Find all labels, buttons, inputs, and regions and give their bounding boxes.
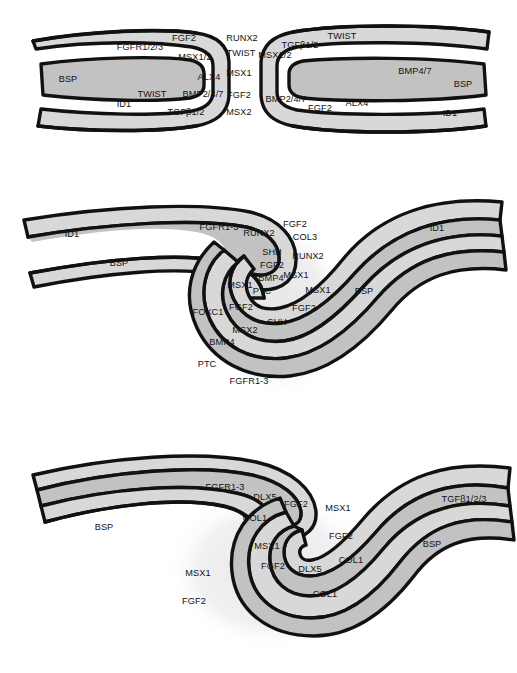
gene-label: RUNX2 bbox=[292, 251, 324, 261]
gene-label: MSX1 bbox=[283, 270, 308, 280]
gene-label: FGFR1/2/3 bbox=[117, 42, 163, 52]
gene-label: MSX1 bbox=[226, 68, 251, 78]
panel-stage-3: FGFR1-3DLX5FGF2MSX1TGFβ1/2/3COL1BSPFGF2B… bbox=[0, 420, 517, 673]
panel-stage-1-labels: FGFR1/2/3FGF2MSX1/2ALX4BSPTWISTBMP2/4/7I… bbox=[0, 0, 517, 180]
gene-label: RUNX2 bbox=[243, 228, 275, 238]
gene-label: FGFR1-3 bbox=[200, 222, 239, 232]
gene-label: SHH bbox=[267, 317, 287, 327]
gene-label: COL3 bbox=[293, 232, 317, 242]
panel-stage-2-labels: ID1FGFR1-3RUNX2FGF2COL3BSPSHHRUNX2FGF2BM… bbox=[0, 180, 517, 420]
gene-label: MSX1 bbox=[305, 285, 330, 295]
gene-label: COL1 bbox=[339, 555, 363, 565]
gene-label: COL1 bbox=[243, 513, 267, 523]
gene-label: FGF2 bbox=[227, 90, 251, 100]
gene-label: FGF2 bbox=[182, 596, 206, 606]
gene-label: TGFβ1/2/3 bbox=[442, 494, 487, 504]
gene-label: DLX5 bbox=[253, 492, 276, 502]
gene-label: MSX2 bbox=[226, 107, 251, 117]
gene-label: FGF2 bbox=[260, 260, 284, 270]
gene-label: FGF2 bbox=[284, 499, 308, 509]
gene-label: TWIST bbox=[327, 31, 356, 41]
gene-label: BMP2/4/7 bbox=[265, 94, 306, 104]
gene-label: ID1 bbox=[443, 108, 458, 118]
gene-label: PTC bbox=[253, 286, 272, 296]
gene-label: FGF2 bbox=[229, 302, 253, 312]
panel-stage-1: FGFR1/2/3FGF2MSX1/2ALX4BSPTWISTBMP2/4/7I… bbox=[0, 0, 517, 180]
gene-label: BSP bbox=[423, 539, 442, 549]
gene-label: SHH bbox=[262, 247, 282, 257]
gene-label: FGF2 bbox=[292, 303, 316, 313]
gene-label: MSX1/2 bbox=[258, 50, 291, 60]
gene-label: BSP bbox=[59, 74, 78, 84]
gene-label: RUNX2 bbox=[226, 33, 258, 43]
gene-label: TGFβ1/2 bbox=[281, 40, 318, 50]
gene-label: FGFR1-3 bbox=[206, 482, 245, 492]
gene-label: BSP bbox=[95, 522, 114, 532]
gene-label: MSX1 bbox=[325, 503, 350, 513]
gene-label: BMP4 bbox=[258, 273, 283, 283]
gene-label: ID1 bbox=[430, 223, 445, 233]
gene-label: DLX5 bbox=[298, 564, 321, 574]
gene-label: FGF2 bbox=[283, 219, 307, 229]
gene-label: TGFβ1/2 bbox=[167, 107, 204, 117]
panel-stage-3-labels: FGFR1-3DLX5FGF2MSX1TGFβ1/2/3COL1BSPFGF2B… bbox=[0, 420, 517, 673]
gene-label: ALX4 bbox=[198, 72, 221, 82]
gene-label: MSX1 bbox=[254, 541, 279, 551]
gene-label: FGFR1-3 bbox=[230, 376, 269, 386]
gene-label: MSX2 bbox=[232, 325, 257, 335]
gene-label: FGF2 bbox=[329, 531, 353, 541]
gene-label: BSP bbox=[110, 258, 129, 268]
suture-development-figure: FGFR1/2/3FGF2MSX1/2ALX4BSPTWISTBMP2/4/7I… bbox=[0, 0, 517, 673]
gene-label: ID1 bbox=[65, 229, 80, 239]
gene-label: BMP4 bbox=[209, 337, 234, 347]
gene-label: ID1 bbox=[117, 99, 132, 109]
gene-label: BMP2/4/7 bbox=[182, 89, 223, 99]
gene-label: BSP bbox=[454, 79, 473, 89]
gene-label: BMP4/7 bbox=[398, 66, 431, 76]
gene-label: FOXC1 bbox=[192, 307, 223, 317]
gene-label: FGF2 bbox=[261, 561, 285, 571]
gene-label: ALX4 bbox=[346, 98, 369, 108]
gene-label: MSX1/2 bbox=[178, 52, 211, 62]
gene-label: BSP bbox=[355, 286, 374, 296]
gene-label: COL1 bbox=[313, 589, 337, 599]
gene-label: TWIST bbox=[137, 89, 166, 99]
gene-label: TWIST bbox=[226, 48, 255, 58]
gene-label: PTC bbox=[198, 359, 217, 369]
gene-label: FGF2 bbox=[308, 103, 332, 113]
panel-stage-2: ID1FGFR1-3RUNX2FGF2COL3BSPSHHRUNX2FGF2BM… bbox=[0, 180, 517, 420]
gene-label: MSX1 bbox=[185, 568, 210, 578]
gene-label: MSX1 bbox=[227, 280, 252, 290]
gene-label: FGF2 bbox=[172, 33, 196, 43]
